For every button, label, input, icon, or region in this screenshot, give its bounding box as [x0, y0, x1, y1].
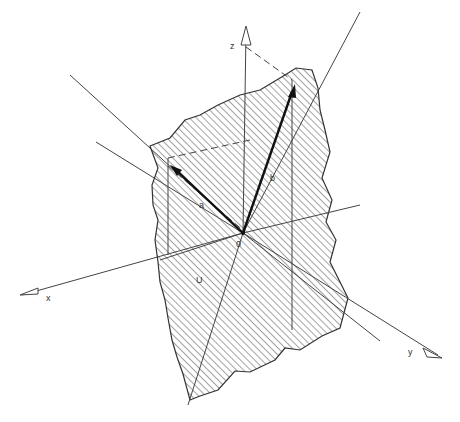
origin-label: 0: [236, 240, 241, 249]
vector-a-label: a: [199, 201, 204, 210]
vector-b-label: b: [270, 174, 275, 183]
z-axis-label: z: [230, 42, 235, 51]
x-axis-arrowhead: [20, 288, 38, 295]
y-axis-label: y: [408, 348, 413, 357]
x-axis-label: x: [46, 294, 51, 303]
diagram-canvas: [0, 0, 460, 422]
origin-point: [241, 231, 245, 235]
y-axis-arrowhead: [423, 348, 442, 358]
z-axis-arrowhead: [241, 26, 251, 45]
plane-u: [150, 68, 348, 400]
plane-u-label: U: [196, 276, 203, 285]
